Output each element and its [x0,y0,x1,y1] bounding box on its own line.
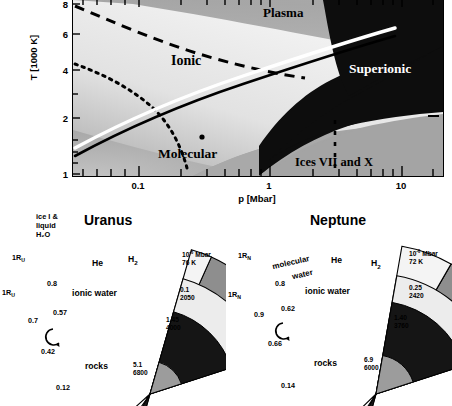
interiors-panel: Uranus Neptune [0,206,452,406]
x-axis-label: p [Mbar] [72,193,442,204]
uranus-radius-0p57: 0.57 [53,308,67,317]
uranus-svg [0,206,226,406]
uranus-layer-label-rocks: rocks [85,361,108,371]
y-tick-8: 8 [52,0,68,10]
neptune-surface-conditions: 10-6 Mbar 72 K [409,248,438,267]
neptune-boundary-3: 6.9 6000 [364,356,379,372]
neptune-radius-0p26: 0.26 [296,346,310,355]
uranus-left-wedge-0p42: 0.42 [41,347,55,356]
uranus-layer-label-he: He [92,258,103,268]
plot-area: Plasma Ionic Superionic Molecular Ices V… [72,0,444,177]
neptune-left-wedge-0p9: 0.9 [254,310,264,319]
neptune-layer-label-he: He [331,255,342,265]
neptune-layer-label-superionic-water: superionic [299,312,342,322]
neptune-wedge-diagram: 1RN 1RN molecular water He H2 ionic wate… [226,206,452,406]
neptune-radius-0p8: 0.8 [275,279,285,288]
neptune-radius-symbol-left-wedge: 1RN [228,290,241,300]
uranus-radius-0p8: 0.8 [47,279,57,288]
y-tick-2: 2 [52,113,68,124]
y-tick-4: 4 [52,65,68,76]
uranus-left-wedge-0p7: 0.7 [28,316,38,325]
phase-diagram-panel: T [1000 K] 8 6 4 2 1 [0,0,452,206]
neptune-radius-0p14: 0.14 [281,381,295,390]
uranus-radius-0p22: 0.22 [66,349,80,358]
neptune-radius-symbol-outer: 1RN [238,251,251,261]
neptune-layer-label-ionic-water: ionic water [305,286,350,296]
uranus-radius-symbol-outer: 1RU [12,253,25,263]
uranus-radius-symbol-left-wedge: 1RU [2,288,15,298]
uranus-annotation-ice-liquid: ice I & liquid H₂O [36,212,92,239]
x-tick-1: 1 [266,180,271,191]
rotation-arrow-icon [46,329,60,347]
neptune-boundary-1: 0.25 2420 [409,284,424,300]
uranus-boundary-1: 0.1 2050 [180,286,195,302]
neptune-radius-0p62: 0.62 [281,304,295,313]
neptune-layer-label-h2: H2 [371,258,381,270]
neptune-left-wedge-0p66: 0.66 [268,339,282,348]
figure-root: T [1000 K] 8 6 4 2 1 [0,0,452,406]
y-tick-1: 1 [52,169,68,180]
uranus-radius-0p12: 0.12 [56,383,70,392]
uranus-layer-label-superionic-water: superionic [68,318,111,328]
uranus-layer-label-h2: H2 [128,254,138,266]
uranus-layer-label-superionic-water-2: water [83,332,105,342]
y-axis-label: T [1000 K] [28,23,39,93]
x-tick-0p1: 0.1 [131,180,144,191]
neptune-svg [226,206,452,406]
uranus-wedge-diagram: ice I & liquid H₂O 1RU 1RU He H2 ionic w… [0,206,226,406]
uranus-layer-label-ionic-water: ionic water [72,288,117,298]
uranus-boundary-3: 5.1 6800 [133,361,148,377]
phase-diagram-svg [73,0,443,176]
dot-marker-icon [199,134,204,139]
uranus-surface-conditions: 10-6 Mbar 76 K [182,249,211,268]
neptune-boundary-2: 1.40 3760 [394,314,409,330]
x-tick-10: 10 [396,180,407,191]
y-tick-6: 6 [52,29,68,40]
neptune-layer-label-superionic-water-2: water [314,327,336,337]
uranus-boundary-2: 1.45 4000 [166,316,181,332]
neptune-layer-label-rocks: rocks [314,358,337,368]
